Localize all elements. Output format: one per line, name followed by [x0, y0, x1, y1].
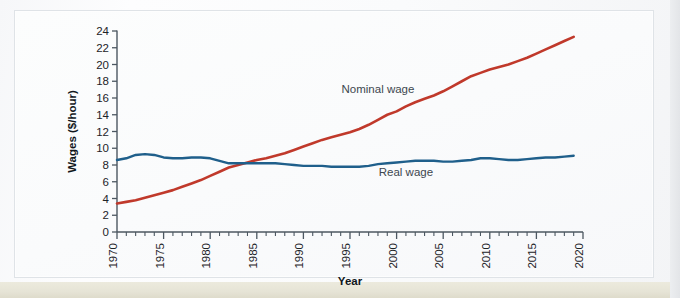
x-axis-tick-label: 2015 — [526, 243, 538, 269]
series-annotation-real-wage: Real wage — [379, 166, 433, 178]
y-axis-tick-label: 18 — [96, 75, 109, 87]
x-axis-tick-label: 2010 — [480, 243, 492, 269]
y-axis-title: Wages ($/hour) — [66, 90, 78, 173]
x-axis-tick-label: 2020 — [573, 243, 585, 269]
wages-line-chart: 0246810121416182022241970197519801985199… — [0, 0, 680, 298]
x-axis-tick-label: 2000 — [387, 243, 399, 269]
series-annotation-nominal-wage: Nominal wage — [342, 83, 415, 95]
y-axis-tick-label: 22 — [96, 42, 109, 54]
x-axis-tick-label: 2005 — [433, 243, 445, 269]
y-axis-tick-label: 20 — [96, 59, 109, 71]
series-line-real-wage — [117, 154, 574, 167]
chart-canvas: 0246810121416182022241970197519801985199… — [0, 0, 680, 298]
y-axis-tick-label: 10 — [96, 142, 109, 154]
axes-layer: 0246810121416182022241970197519801985199… — [96, 25, 585, 269]
series-line-nominal-wage — [117, 37, 574, 204]
x-axis-tick-label: 1975 — [154, 243, 166, 269]
y-axis-tick-label: 8 — [103, 159, 109, 171]
y-axis-tick-label: 24 — [96, 25, 109, 37]
y-axis-tick-label: 4 — [103, 193, 110, 205]
y-axis-tick-label: 12 — [96, 126, 109, 138]
x-axis-tick-label: 1985 — [247, 243, 259, 269]
y-axis-tick-label: 0 — [103, 226, 109, 238]
x-axis-tick-label: 1995 — [340, 243, 352, 269]
series-layer — [117, 37, 574, 204]
x-axis-tick-label: 1970 — [107, 243, 119, 269]
y-axis-tick-label: 2 — [103, 209, 109, 221]
y-axis-tick-label: 14 — [96, 109, 109, 121]
x-axis-tick-label: 1990 — [293, 243, 305, 269]
y-axis-tick-label: 16 — [96, 92, 109, 104]
x-axis-tick-label: 1980 — [200, 243, 212, 269]
page-root: 0246810121416182022241970197519801985199… — [0, 0, 680, 298]
x-axis-title: Year — [338, 275, 363, 287]
y-axis-tick-label: 6 — [103, 176, 109, 188]
